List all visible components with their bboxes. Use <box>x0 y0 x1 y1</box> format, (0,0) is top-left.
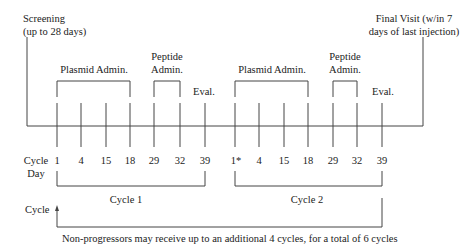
cycle-day-label-line2: Day <box>22 167 50 180</box>
cycle2-peptide-bracket <box>333 81 357 97</box>
cycle2-name: Cycle 2 <box>277 193 337 206</box>
cycle2-eval-label: Eval. <box>372 85 394 98</box>
cycle2-peptide-label: Peptide Admin. <box>323 50 367 76</box>
cycle-day-label-line1: Cycle <box>22 154 50 167</box>
cycle1-peptide-bracket <box>154 81 180 97</box>
footnote: Non-progressors may receive up to an add… <box>62 232 398 245</box>
cycle2-day-ticks <box>235 103 382 147</box>
cycle2-peptide-label-line1: Peptide <box>323 50 367 63</box>
cycle1-plasmid-bracket <box>57 81 130 97</box>
cycle1-day: 39 <box>195 154 215 167</box>
cycle2-day: 15 <box>274 154 294 167</box>
cycle1-day: 32 <box>170 154 190 167</box>
cycle2-day: 32 <box>347 154 367 167</box>
cycle2-day: 39 <box>372 154 392 167</box>
cycle-axis-label: Cycle <box>25 203 50 216</box>
cycle1-peptide-label-line1: Peptide <box>145 50 189 63</box>
final-visit-label-line2: days of last injection) <box>358 25 470 38</box>
screening-label: Screening (up to 28 days) <box>23 12 86 38</box>
screening-label-line1: Screening <box>23 12 86 25</box>
cycle2-day: 1* <box>226 154 246 167</box>
cycle2-plasmid-label: Plasmid Admin. <box>230 63 314 76</box>
cycle1-day: 15 <box>96 154 116 167</box>
cycle1-name: Cycle 1 <box>96 193 156 206</box>
cycle1-peptide-label-line2: Admin. <box>145 63 189 76</box>
cycle2-day: 4 <box>249 154 269 167</box>
cycle1-eval-label: Eval. <box>193 85 215 98</box>
cycle2-span-bracket <box>235 171 382 186</box>
cycle1-day-ticks <box>57 103 205 147</box>
cycle2-plasmid-bracket <box>235 81 308 97</box>
cycle1-plasmid-label: Plasmid Admin. <box>52 63 136 76</box>
cycle2-day: 18 <box>298 154 318 167</box>
cycle1-day: 4 <box>71 154 91 167</box>
cycle1-day: 18 <box>120 154 140 167</box>
cycle2-day: 29 <box>323 154 343 167</box>
cycle1-peptide-label: Peptide Admin. <box>145 50 189 76</box>
cycle1-day: 29 <box>144 154 164 167</box>
cycle1-day: 1 <box>47 154 67 167</box>
cycle-day-label: Cycle Day <box>22 154 50 180</box>
cycle1-span-bracket <box>57 171 205 186</box>
screening-label-line2: (up to 28 days) <box>23 25 86 38</box>
cycle2-peptide-label-line2: Admin. <box>323 63 367 76</box>
final-visit-label-line1: Final Visit (w/in 7 <box>358 12 470 25</box>
arrow-up-icon <box>55 205 59 211</box>
final-visit-label: Final Visit (w/in 7 days of last injecti… <box>358 12 470 38</box>
